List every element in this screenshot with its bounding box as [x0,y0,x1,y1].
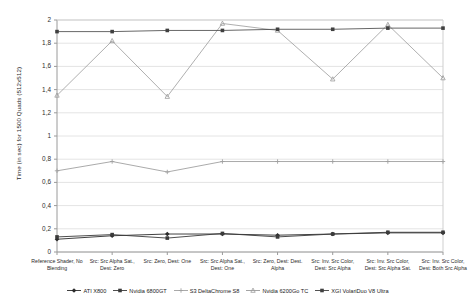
x-axis-tick-label: Src: Inv. Src Color, Dest: Src Alpha [304,258,362,272]
legend-marker-icon [174,287,188,294]
legend-label: Nvidia 6200Go TC [262,288,308,294]
data-point-marker [220,159,224,163]
y-axis-tick-label: 0 [29,248,51,255]
legend-item[interactable]: Nvidia 6200Go TC [246,287,308,294]
data-point-marker [331,27,335,31]
data-point-marker [55,30,59,34]
legend-label: S3 DeltaChrome S8 [190,288,240,294]
data-point-marker [221,232,225,236]
y-axis-tick-label: 1,6 [29,62,51,69]
data-point-marker [386,230,390,234]
data-point-marker [110,159,114,163]
y-axis-tick-label: 2 [29,16,51,23]
data-point-marker [165,232,170,237]
legend-item[interactable]: Nvidia 6800GT [113,287,166,294]
legend-marker-icon [315,287,329,294]
chart-legend: ATI X800Nvidia 6800GTS3 DeltaChrome S8Nv… [0,287,456,294]
data-point-marker [110,233,114,237]
y-axis-tick-label: 0,2 [29,225,51,232]
series-line [57,162,443,172]
series-layer [55,21,446,241]
axis-lines [54,20,443,255]
legend-label: XGI VolariDuo V8 Ultra [331,288,388,294]
data-point-marker [165,170,169,174]
legend-marker-icon [67,287,81,294]
data-point-marker [165,236,169,240]
data-point-marker [72,288,77,293]
data-point-marker [55,235,59,239]
legend-item[interactable]: S3 DeltaChrome S8 [174,287,240,294]
y-axis-tick-label: 0,4 [29,202,51,209]
x-axis-tick-label: Reference Shader, No Blending [28,258,86,272]
legend-marker-icon [113,287,127,294]
y-axis-tick-label: 1,2 [29,109,51,116]
data-point-marker [276,235,280,239]
data-point-marker [165,29,169,33]
data-point-marker [221,29,225,33]
data-point-marker [321,289,325,293]
data-point-marker [119,289,123,293]
data-point-marker [55,169,59,173]
data-point-marker [441,230,445,234]
x-axis-tick-label: Src: Src Alpha Sat., Dest: One [193,258,251,272]
data-point-marker [441,159,445,163]
data-point-marker [110,30,114,34]
x-axis-tick-label: Src: Zero, Dest: One [138,258,196,265]
y-axis-tick-label: 1 [29,132,51,139]
series-xgi-volariduo-v8-ultra [55,26,445,33]
legend-marker-icon [246,287,260,294]
y-axis-tick-label: 0,8 [29,155,51,162]
y-axis-tick-label: 1,4 [29,86,51,93]
data-point-marker [276,27,280,31]
data-point-marker [331,232,335,236]
legend-item[interactable]: ATI X800 [67,287,106,294]
data-point-marker [386,159,390,163]
data-point-marker [441,26,445,30]
legend-label: Nvidia 6800GT [129,288,166,294]
data-point-marker [386,26,390,30]
series-s3-deltachrome-s8 [55,159,445,174]
x-axis-tick-label: Src: Inv. Src Color, Dest: Both Src Alph… [414,258,472,272]
x-axis-tick-label: Src: Src Alpha Sat., Dest: Zero [83,258,141,272]
data-point-marker [178,288,182,292]
y-axis-tick-label: 1,8 [29,39,51,46]
series-line [57,233,443,239]
series-line [57,23,443,96]
legend-label: ATI X800 [83,288,106,294]
series-nvidia-6800gt [55,230,445,239]
legend-item[interactable]: XGI VolariDuo V8 Ultra [315,287,388,294]
data-point-marker [275,159,279,163]
gridlines [57,20,443,252]
y-axis-tick-label: 0,6 [29,178,51,185]
x-axis-tick-label: Src: Inv. Src Color, Dest: Src Alpha Sat… [359,258,417,272]
data-point-marker [331,159,335,163]
x-axis-tick-label: Src: Zero, Dest: Dest. Alpha [249,258,307,272]
series-line [57,28,443,31]
